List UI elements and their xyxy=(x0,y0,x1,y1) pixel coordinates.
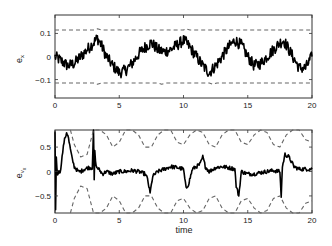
x-tick-label: 5 xyxy=(117,216,122,225)
bottom-ylabel: evx xyxy=(14,167,27,178)
figure: 051015200.10−0.1 ex 051015200.50−0.5 evx… xyxy=(0,0,332,246)
y-tick-label: 0.1 xyxy=(40,29,52,38)
bottom-plot: 051015200.50−0.5 evx time xyxy=(14,130,317,235)
top-ylabel: ex xyxy=(14,55,25,63)
x-tick-label: 20 xyxy=(308,216,317,225)
x-tick-label: 20 xyxy=(308,101,317,110)
x-tick-label: 0 xyxy=(53,101,58,110)
x-tick-label: 10 xyxy=(179,216,188,225)
y-tick-label: −0.1 xyxy=(35,76,51,85)
x-tick-label: 5 xyxy=(117,101,122,110)
y-tick-label: −0.5 xyxy=(35,192,51,201)
top-plot: 051015200.10−0.1 ex xyxy=(14,15,317,110)
y-tick-label: 0.5 xyxy=(40,143,52,152)
y-tick-label: 0 xyxy=(47,53,52,62)
x-tick-label: 15 xyxy=(243,101,252,110)
y-tick-label: 0 xyxy=(47,168,52,177)
x-tick-label: 10 xyxy=(179,101,188,110)
x-tick-label: 15 xyxy=(243,216,252,225)
x-tick-label: 0 xyxy=(53,216,58,225)
bottom-xlabel: time xyxy=(175,225,192,235)
top-plot-frame xyxy=(55,15,312,98)
